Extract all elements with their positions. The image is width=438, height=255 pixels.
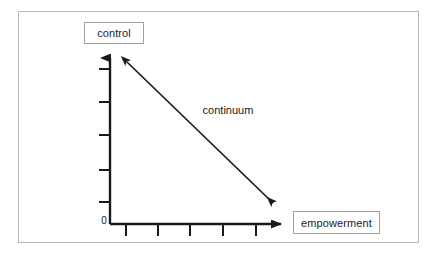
x-axis-ticks [126,224,256,236]
axis-label-empowerment: empowerment [293,211,380,234]
axis-label-control-text: control [97,27,131,39]
axis-label-empowerment-text: empowerment [301,217,372,229]
x-axis [110,224,281,236]
continuum-label: continuum [193,104,263,116]
y-axis [99,58,110,224]
diagram-canvas: control empowerment continuum 0 [0,0,438,255]
continuum-arrow [127,62,273,203]
axis-label-control: control [84,22,144,44]
origin-label: 0 [99,215,109,226]
y-axis-ticks [99,69,110,202]
